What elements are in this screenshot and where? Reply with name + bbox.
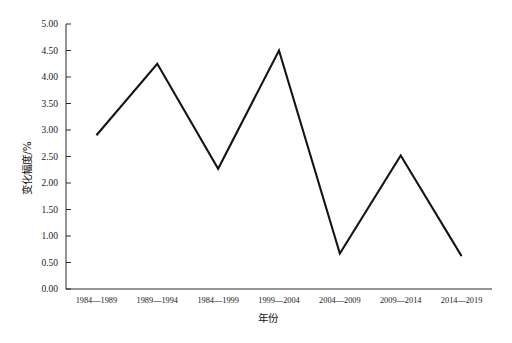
x-tick-label: 2009—2014 [380, 296, 422, 305]
y-tick-label: 0.50 [41, 258, 58, 268]
y-tick-label: 5.00 [41, 19, 58, 29]
x-tick-label: 1999—2004 [258, 296, 300, 305]
y-tick-label: 3.00 [41, 125, 58, 135]
y-tick-label: 4.50 [41, 46, 58, 56]
x-tick-label: 2014—2019 [441, 296, 482, 305]
plot-background [0, 0, 512, 343]
y-tick-label: 4.00 [41, 72, 58, 82]
y-tick-label: 3.50 [41, 99, 58, 109]
y-axis-title: 变化幅度/% [21, 141, 33, 195]
line-chart: 0.000.501.001.502.002.503.003.504.004.50… [0, 0, 512, 343]
chart-container: 0.000.501.001.502.002.503.003.504.004.50… [0, 0, 512, 343]
x-tick-label: 1984—1989 [76, 296, 117, 305]
y-tick-label: 2.00 [41, 178, 58, 188]
y-tick-label: 1.00 [41, 231, 58, 241]
x-tick-label: 1984—1999 [197, 296, 238, 305]
x-tick-label: 2004—2009 [319, 296, 360, 305]
x-tick-label: 1989—1994 [137, 296, 179, 305]
y-tick-label: 1.50 [41, 205, 58, 215]
y-tick-label: 0.00 [41, 284, 58, 294]
x-axis-title: 年份 [258, 312, 279, 324]
y-tick-label: 2.50 [41, 152, 58, 162]
x-axis-tick-labels: 1984—19891989—19941984—19991999—20042004… [76, 296, 483, 305]
